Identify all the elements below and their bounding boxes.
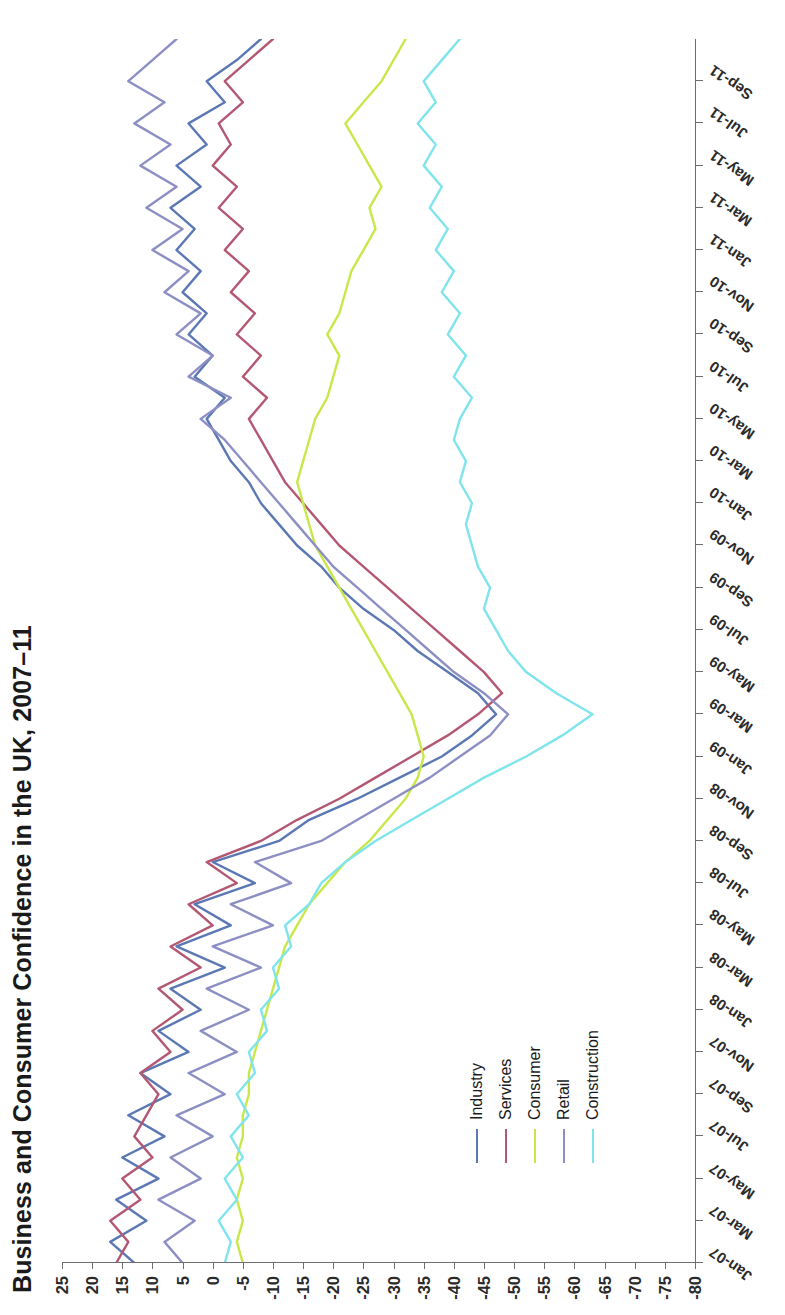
x-axis-label: Jul-07 [706,1117,751,1156]
x-axis-label: Mar-10 [706,442,755,484]
x-axis-tick [696,924,703,925]
x-axis-tick [696,122,703,123]
y-axis-tick [665,1262,666,1269]
x-axis-label: Jan-10 [706,484,755,525]
legend-label: Services [497,1059,515,1120]
x-axis-label: Sep-09 [706,569,756,611]
y-axis-tick [213,1262,214,1269]
x-axis-tick [696,882,703,883]
y-axis-tick [92,1262,93,1269]
y-axis-tick [454,1262,455,1269]
series-line-retail [128,39,508,1263]
y-axis-label: 25 [53,1276,72,1294]
series-line-industry [110,39,496,1263]
legend-label: Retail [555,1079,573,1120]
x-axis-label: Jan-07 [706,1244,755,1285]
y-axis-label: -70 [625,1276,644,1300]
x-axis-tick [696,376,703,377]
x-axis-label: May-10 [706,400,757,443]
x-axis-label: May-08 [706,906,757,949]
x-axis-tick [696,1051,703,1052]
y-axis-tick [605,1262,606,1269]
x-axis-label: Jul-09 [706,611,751,650]
y-axis-tick [424,1262,425,1269]
x-axis-tick [696,165,703,166]
y-axis-tick [695,1262,696,1269]
y-axis-label: 15 [113,1276,132,1294]
x-axis-tick [696,629,703,630]
x-axis-label: Jan-09 [706,738,755,779]
x-axis-tick [696,840,703,841]
y-axis-tick [574,1262,575,1269]
x-axis-tick [696,1178,703,1179]
x-axis-tick [696,671,703,672]
legend-label: Industry [468,1063,486,1120]
x-axis-tick [696,502,703,503]
y-axis-label: -65 [595,1276,614,1300]
y-axis-tick [333,1262,334,1269]
x-axis-tick [696,1220,703,1221]
y-axis-label: 20 [83,1276,102,1294]
y-axis-label: -15 [294,1276,313,1300]
y-axis-label: -30 [384,1276,403,1300]
y-axis-tick [183,1262,184,1269]
chart-title: Business and Consumer Confidence in the … [8,23,37,1293]
y-axis-tick [122,1262,123,1269]
x-axis-label: May-11 [706,147,757,190]
x-axis-label: Jan-08 [706,991,755,1032]
x-axis-tick [696,249,703,250]
y-axis-label: -80 [686,1276,705,1300]
legend-item-consumer: Consumer [526,1030,544,1163]
chart-legend: IndustryServicesConsumerRetailConstructi… [468,1030,602,1163]
x-axis-tick [696,1093,703,1094]
y-axis-label: -40 [444,1276,463,1300]
rotated-figure-wrapper: Business and Consumer Confidence in the … [0,0,785,1315]
y-axis-label: 10 [143,1276,162,1294]
legend-item-services: Services [497,1030,515,1163]
y-axis-label: -10 [264,1276,283,1300]
x-axis-label: Mar-08 [706,949,755,991]
legend-item-industry: Industry [468,1030,486,1163]
y-axis-label: 5 [173,1276,192,1285]
x-axis-label: Nov-07 [706,1033,757,1076]
legend-color-swatch [476,1129,478,1163]
legend-color-swatch [505,1129,507,1163]
y-axis: 2520151050-5-10-15-20-25-30-35-40-45-50-… [62,1262,695,1263]
y-axis-label: -35 [414,1276,433,1300]
y-axis-tick [394,1262,395,1269]
x-axis-tick [696,291,703,292]
x-axis-label: May-07 [706,1160,757,1203]
x-axis-label: Sep-10 [706,316,756,358]
legend-label: Construction [584,1030,602,1120]
x-axis-tick [696,1262,703,1263]
x-axis-tick [696,587,703,588]
x-axis-label: Jul-10 [706,358,751,397]
chart-page: Business and Consumer Confidence in the … [0,0,785,1315]
legend-label: Consumer [526,1046,544,1120]
legend-color-swatch [563,1129,565,1163]
x-axis-label: Sep-08 [706,822,756,864]
x-axis-tick [696,967,703,968]
x-axis-tick [696,460,703,461]
legend-color-swatch [592,1129,594,1163]
series-line-consumer [237,39,424,1263]
y-axis-tick [514,1262,515,1269]
x-axis-label: Nov-10 [706,273,757,316]
y-axis-label: -50 [505,1276,524,1300]
x-axis-label: Nov-08 [706,780,757,823]
line-chart-figure: Business and Consumer Confidence in the … [0,0,785,1315]
x-axis-tick [696,713,703,714]
y-axis-tick [484,1262,485,1269]
x-axis-label: Mar-11 [706,189,755,230]
y-axis-label: -5 [233,1276,252,1291]
y-axis-label: 0 [203,1276,222,1285]
y-axis-tick [152,1262,153,1269]
x-axis-label: Sep-11 [706,62,755,104]
y-axis-label: -20 [324,1276,343,1300]
y-axis-label: -75 [655,1276,674,1300]
x-axis-label: May-09 [706,653,757,696]
y-axis-tick [544,1262,545,1269]
y-axis-tick [243,1262,244,1269]
x-axis-label: Mar-09 [706,695,755,737]
y-axis-label: -25 [354,1276,373,1300]
